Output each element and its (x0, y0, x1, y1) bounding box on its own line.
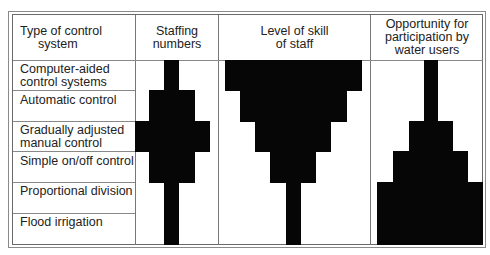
staffing-bar-row3 (135, 121, 210, 152)
opportunity-bar-row3 (409, 121, 453, 152)
header-skill: Level of skill of staff (219, 15, 370, 60)
header-staffing-line2: numbers (153, 38, 202, 51)
header-staffing-line1: Staffing (153, 25, 202, 38)
row-label-line1: Automatic control (20, 94, 117, 107)
header-control-type: Type of control system (20, 15, 135, 60)
row-label-flood: Flood irrigation (20, 216, 103, 229)
header-staffing: Staffing numbers (136, 15, 218, 60)
staffing-bar-row5-6 (164, 182, 179, 245)
row-label-line1: Proportional division (20, 185, 133, 198)
opportunity-bar-row5-6 (377, 182, 483, 245)
row-label-line2: control systems (20, 76, 110, 89)
skill-bar-row5-6 (286, 182, 301, 245)
header-opportunity-line3: water users (385, 44, 469, 57)
staffing-bar-row2 (149, 90, 195, 122)
skill-bar-row2 (240, 90, 347, 122)
header-skill-line2: of staff (260, 38, 328, 51)
row-label-gradually-adjusted: Gradually adjusted manual control (20, 124, 124, 150)
staffing-bar-row4 (149, 151, 195, 183)
opportunity-bar-row1-2 (424, 60, 438, 122)
skill-bar-row1 (225, 60, 362, 91)
row-label-simple-on-off: Simple on/off control (20, 155, 134, 168)
row-label-line2: manual control (20, 137, 124, 150)
row-divider (13, 213, 135, 214)
row-divider (13, 182, 135, 183)
header-control-type-line2: system (20, 38, 102, 51)
row-divider (13, 121, 135, 122)
row-label-computer-aided: Computer-aided control systems (20, 63, 110, 89)
header-skill-line1: Level of skill (260, 25, 328, 38)
staffing-bar-row1 (164, 60, 179, 91)
row-divider (13, 90, 135, 91)
skill-bar-row4 (270, 151, 316, 183)
opportunity-bar-row4 (393, 151, 468, 183)
row-label-line1: Flood irrigation (20, 216, 103, 229)
row-label-automatic: Automatic control (20, 94, 117, 107)
row-label-proportional: Proportional division (20, 185, 133, 198)
row-label-line1: Simple on/off control (20, 155, 134, 168)
row-divider (13, 151, 135, 152)
header-opportunity: Opportunity for participation by water u… (371, 15, 483, 60)
header-control-type-line1: Type of control (20, 25, 102, 38)
skill-bar-row3 (255, 121, 331, 152)
